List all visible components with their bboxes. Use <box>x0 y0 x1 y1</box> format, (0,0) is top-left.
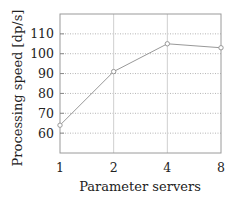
x-tick-label: 2 <box>110 160 118 175</box>
x-tick-label: 1 <box>56 160 64 175</box>
y-tick-label: 70 <box>38 106 54 121</box>
y-tick-label: 110 <box>30 26 54 41</box>
grid-lines <box>60 14 221 153</box>
x-tick-label: 8 <box>217 160 225 175</box>
y-tick-label: 80 <box>38 86 54 101</box>
data-point-marker <box>111 69 115 73</box>
data-series <box>58 42 223 128</box>
y-tick-label: 60 <box>38 126 54 141</box>
plot-frame <box>60 14 221 153</box>
x-axis-title: Parameter servers <box>79 179 201 194</box>
y-axis-title: Processing speed [dp/s] <box>10 10 25 167</box>
line-chart: 60708090100110 1248 Parameter servers Pr… <box>0 0 234 204</box>
y-tick-label: 100 <box>30 46 54 61</box>
data-point-marker <box>58 123 62 127</box>
x-tick-label: 4 <box>163 160 171 175</box>
x-axis-ticks: 1248 <box>56 160 225 175</box>
y-tick-label: 90 <box>38 66 54 81</box>
data-point-marker <box>219 46 223 50</box>
data-point-marker <box>165 42 169 46</box>
